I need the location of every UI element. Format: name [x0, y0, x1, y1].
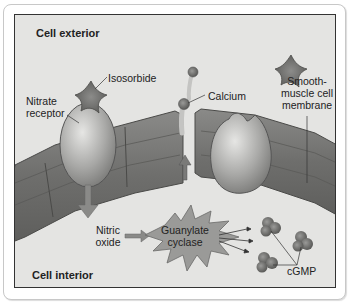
- cgmp-label: cGMP: [287, 265, 316, 277]
- guanylate-cyclase-label-line2: cyclase: [157, 236, 213, 248]
- calcium-ion-icon: [188, 67, 198, 77]
- nitric-oxide-label-line2: oxide: [91, 236, 125, 248]
- cell-interior-label: Cell interior: [32, 269, 93, 281]
- guanylate-cyclase-label-line1: Guanylate: [157, 224, 213, 236]
- membrane-label-line2: muscle cell: [277, 87, 336, 99]
- membrane-label-line1: Smooth-: [277, 75, 336, 87]
- calcium-ion-icon: [179, 99, 190, 110]
- arrow-right-icon: [125, 230, 149, 242]
- diagram-frame: Cell exterior Isosorbide Nitrate recepto…: [14, 14, 336, 288]
- cell-exterior-label: Cell exterior: [36, 27, 100, 39]
- nitric-oxide-label-line1: Nitric: [91, 224, 125, 236]
- membrane-label-line3: membrane: [277, 99, 336, 111]
- isosorbide-label: Isosorbide: [108, 72, 156, 84]
- nitrate-receptor-label-line1: Nitrate: [26, 95, 57, 107]
- nitrate-receptor-label-line2: receptor: [26, 107, 65, 119]
- calcium-label: Calcium: [208, 90, 246, 102]
